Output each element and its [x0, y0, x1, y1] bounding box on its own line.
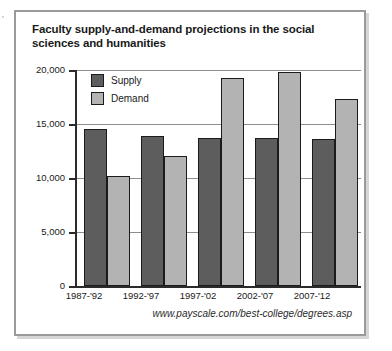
ytick-label-10000: 10,000: [19, 172, 65, 183]
chart-legend: Supply Demand: [91, 74, 149, 110]
bar-demand-1997-02: [221, 78, 244, 286]
bar-supply-1987-92: [84, 129, 107, 286]
bar-supply-2007-12: [312, 139, 335, 286]
chart-card: Faculty supply-and-demand projections in…: [14, 10, 366, 336]
bar-group-1997-02: [198, 70, 247, 286]
bar-supply-2002-07: [255, 138, 278, 286]
bar-demand-1992-97: [164, 156, 187, 286]
legend-swatch-demand: [91, 92, 104, 105]
ytick-label-5000: 5,000: [19, 226, 65, 237]
legend-item-supply: Supply: [91, 74, 149, 87]
bar-group-2002-07: [255, 70, 304, 286]
legend-label-demand: Demand: [111, 93, 149, 104]
legend-label-supply: Supply: [111, 75, 142, 86]
x-axis-line: [75, 286, 361, 288]
xtick-label-2007-12: 2007-'12: [277, 290, 347, 301]
bar-supply-1992-97: [141, 136, 164, 286]
source-caption: www.payscale.com/best-college/degrees.as…: [16, 308, 352, 319]
legend-item-demand: Demand: [91, 92, 149, 105]
ytick-label-15000: 15,000: [19, 118, 65, 129]
bar-demand-2002-07: [278, 72, 301, 286]
bar-demand-2007-12: [335, 99, 358, 286]
bar-group-2007-12: [312, 70, 361, 286]
chart-screenshot: ' Faculty supply-and-demand projections …: [0, 0, 392, 351]
bar-supply-1997-02: [198, 138, 221, 286]
bar-demand-1987-92: [107, 176, 130, 286]
scan-artifact: ': [2, 14, 8, 20]
ytick-label-20000: 20,000: [19, 64, 65, 75]
plot-area: 20,000 15,000 10,000 5,000 0: [16, 12, 364, 334]
legend-swatch-supply: [91, 74, 104, 87]
